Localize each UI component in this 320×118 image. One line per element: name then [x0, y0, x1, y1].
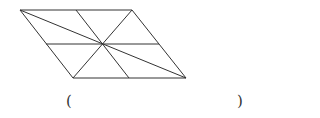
- answer-blank[interactable]: [80, 94, 230, 112]
- answer-open-paren: (: [66, 94, 72, 109]
- answer-close-paren: ): [237, 94, 243, 109]
